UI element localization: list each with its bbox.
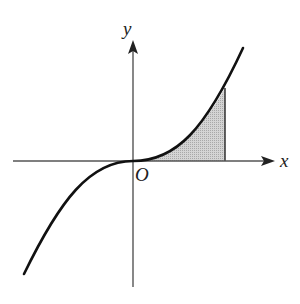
graph-canvas: y x O [0, 0, 300, 304]
x-axis-label: x [279, 150, 289, 171]
y-axis-label: y [121, 18, 132, 39]
origin-label: O [135, 164, 149, 185]
shaded-area [133, 88, 225, 161]
function-graph: y x O [0, 0, 300, 304]
